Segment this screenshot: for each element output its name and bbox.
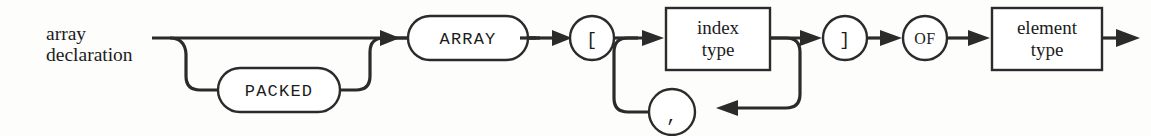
packed-node-label: PACKED (245, 82, 313, 101)
railroad-diagram: array declaration PACKED ARRAY [ index t… (0, 0, 1151, 136)
diagram-title-line-1: array (46, 23, 86, 44)
index-type-label-line-2: type (702, 39, 735, 60)
of-node-label: OF (914, 30, 935, 47)
arrowhead-into-element-type (968, 30, 990, 46)
arrowhead-loop-back (716, 100, 738, 116)
arrowhead-into-of (880, 30, 902, 46)
arrowhead-into-rbracket (800, 30, 822, 46)
comma-loop-node-label: , (666, 107, 677, 127)
rbracket-node-label: ] (839, 30, 850, 50)
rail-loop-up-left (614, 38, 649, 112)
index-type-label-line-1: index (697, 17, 740, 38)
element-type-label-line-1: element (1017, 17, 1078, 38)
rail-packed-branch-in (170, 38, 218, 90)
array-node-label: ARRAY (439, 30, 496, 49)
arrowhead-exit (1116, 29, 1140, 47)
lbracket-node-label: [ (586, 30, 597, 50)
arrowhead-into-array (380, 30, 400, 46)
diagram-title-line-2: declaration (46, 44, 133, 65)
railroad-diagram-canvas: array declaration PACKED ARRAY [ index t… (0, 0, 1151, 136)
element-type-label-line-2: type (1031, 39, 1064, 60)
